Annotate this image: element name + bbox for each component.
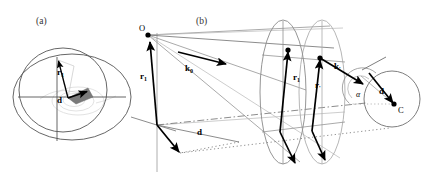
panel-b-point-O-label: O [139,23,145,33]
panel-b-vector-rprime-disk-label: r' [315,80,321,91]
panel-b-point-O [145,32,150,37]
panel-b-vector-k0-label: k0 [185,63,193,74]
panel-b-vector-d-left-label: d [197,127,202,137]
panel-b-base-plane [157,103,390,153]
figure-canvas: (a) r1 d [0,0,422,177]
panel-b-vector-kprime-label: k' [334,61,341,72]
panel-b-point-C-label: C [398,105,404,115]
panel-a-vector-r1-label: r1 [57,67,64,78]
panel-b-vector-rprime-disk-down [312,131,325,160]
panel-b-label: (b) [196,16,207,27]
panel-a-label: (a) [36,16,47,27]
panel-b-group: (b) O C k0 r1 d r1 r' k' d α [131,16,420,172]
panel-b-detector-tangent [362,57,386,70]
panel-b-vector-r1-left-label: r1 [140,71,147,82]
panel-b-vector-r1-left [150,42,157,125]
panel-b-point-disk-front-top [285,47,290,52]
panel-a-vector-d-label: d [57,95,62,105]
panel-b-point-C [391,101,396,106]
panel-b-vector-d-right-label: d [379,86,384,96]
panel-b-vector-rprime-disk [312,60,320,131]
panel-b-angle-alpha-label: α [356,90,361,99]
panel-b-vector-r1-disk [280,52,288,132]
panel-b-detector-circle [364,71,420,127]
panel-b-optical-axis [148,35,334,48]
panel-b-point-disk-back-top [317,55,322,60]
panel-a-group: (a) r1 d [13,16,131,141]
scattering-geometry-diagram: (a) r1 d [0,0,422,177]
panel-b-vector-r1-disk-label: r1 [293,72,300,83]
